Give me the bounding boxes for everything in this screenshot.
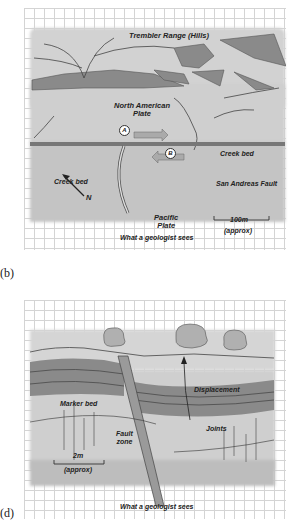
- panel-label-d: (d): [0, 506, 14, 521]
- caption-panel-b: What a geologist sees: [120, 234, 194, 241]
- label-north: N: [86, 194, 91, 202]
- hill-block: [174, 44, 214, 68]
- panel-b-map-view: Trembler Range (Hills) North American Pl…: [24, 8, 286, 250]
- hill-block: [192, 70, 224, 86]
- label-trembler-range: Trembler Range (Hills): [129, 32, 209, 40]
- marker-bed-left: [30, 358, 124, 396]
- tree: [104, 328, 125, 347]
- label-pacific-plate: Pacific Plate: [154, 214, 178, 230]
- marker-b: B: [165, 148, 176, 159]
- label-displacement: Displacement: [194, 386, 240, 394]
- label-fault-zone: Fault zone: [116, 430, 133, 446]
- panel-d-cross-section: Displacement Marker bed Fault zone Joint…: [24, 300, 286, 519]
- tree: [224, 330, 247, 350]
- label-scale-value: 100m: [230, 216, 248, 224]
- label-scale-note: (approx): [224, 227, 252, 235]
- tree: [176, 324, 208, 348]
- label-creek-bed-lower: Creek bed: [54, 178, 88, 186]
- label-joints: Joints: [206, 425, 227, 433]
- marker-a: A: [119, 125, 130, 136]
- label-scale-note: (approx): [64, 466, 92, 474]
- label-marker-bed: Marker bed: [60, 400, 97, 408]
- scale-bar: [54, 460, 104, 464]
- arrow-east: [134, 129, 168, 141]
- label-creek-bed-upper: Creek bed: [220, 150, 254, 158]
- label-san-andreas-fault: San Andreas Fault: [216, 180, 277, 188]
- panel-label-b: (b): [0, 266, 14, 281]
- cross-section-illustration: [24, 300, 286, 519]
- label-scale-value: 2m: [73, 452, 83, 460]
- label-north-american-plate: North American Plate: [114, 102, 170, 118]
- hill-block: [234, 72, 274, 90]
- caption-panel-d: What a geologist sees: [120, 503, 194, 510]
- hill-block: [220, 34, 286, 66]
- fault-trace: [30, 142, 285, 146]
